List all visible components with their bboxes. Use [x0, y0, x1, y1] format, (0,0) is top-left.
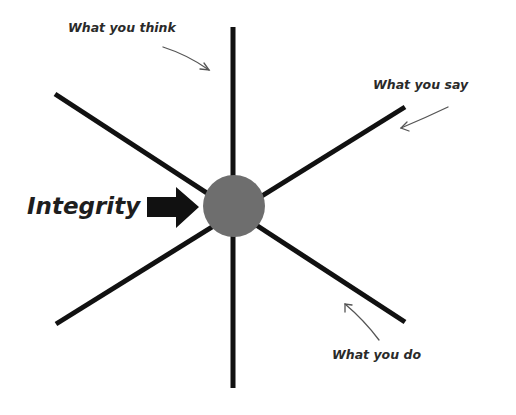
integrity-center-circle [203, 175, 265, 237]
label-integrity: Integrity [27, 193, 140, 219]
pointer-arrow-say-icon [401, 107, 448, 131]
pointer-arrow-think-icon [163, 47, 209, 70]
block-arrow-icon [147, 187, 199, 228]
label-what-you-do: What you do [332, 347, 421, 362]
label-what-you-say: What you say [373, 77, 468, 92]
label-what-you-think: What you think [68, 20, 176, 35]
pointer-arrow-do-icon [345, 304, 379, 340]
